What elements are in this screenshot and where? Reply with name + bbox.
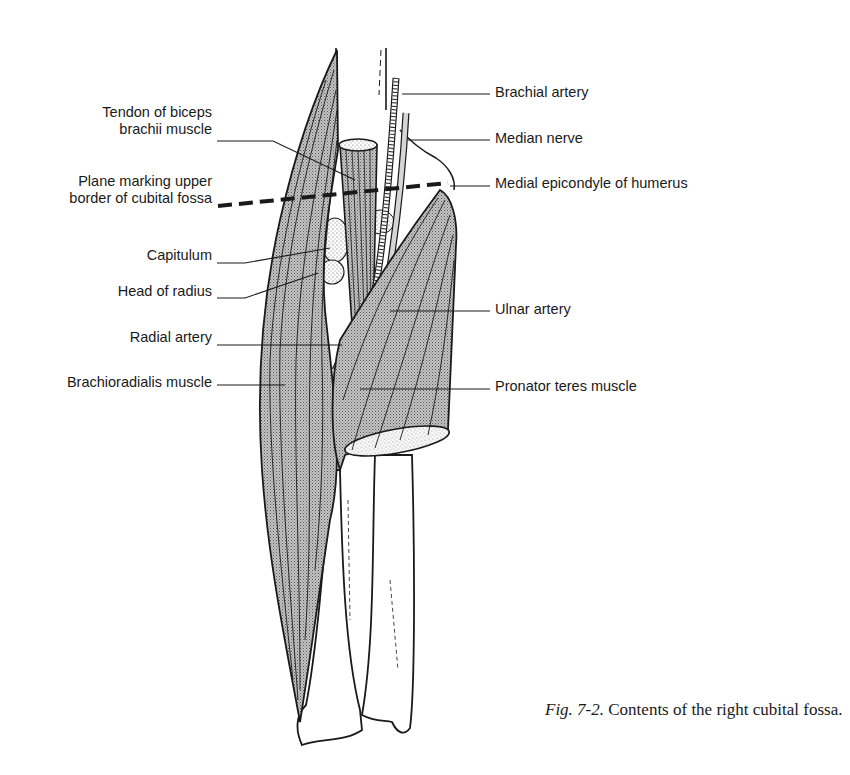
label-line: Tendon of biceps [20,104,212,121]
label-plane-upper-border: Plane marking upper border of cubital fo… [20,173,212,207]
figure-number: Fig. 7-2. [545,700,604,719]
label-brachioradialis: Brachioradialis muscle [20,374,212,391]
label-capitulum: Capitulum [20,247,212,264]
label-brachial-artery: Brachial artery [495,84,588,101]
label-line: Plane marking upper [20,173,212,190]
figure-caption-text: Contents of the right cubital fossa. [608,700,842,719]
label-radial-artery: Radial artery [20,329,212,346]
label-line: border of cubital fossa [20,190,212,207]
label-tendon-of-biceps: Tendon of biceps brachii muscle [20,104,212,138]
label-head-of-radius: Head of radius [20,283,212,300]
label-pronator-teres: Pronator teres muscle [495,378,637,395]
label-median-nerve: Median nerve [495,130,583,147]
figure-caption: Fig. 7-2. Contents of the right cubital … [545,698,845,722]
label-line: brachii muscle [20,121,212,138]
label-ulnar-artery: Ulnar artery [495,301,571,318]
label-medial-epicondyle: Medial epicondyle of humerus [495,175,688,192]
anatomy-figure: Tendon of biceps brachii muscle Plane ma… [0,0,850,775]
